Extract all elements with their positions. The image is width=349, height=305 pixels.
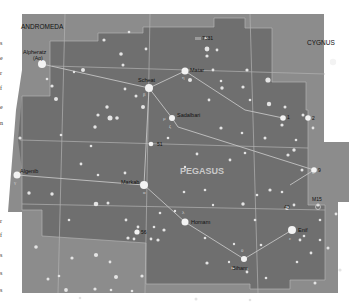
star-sadalbari <box>169 115 175 121</box>
star-51 <box>149 142 154 147</box>
page-cutout <box>338 202 349 293</box>
star-map: ANDROMEDA CYGNUS PEGASUS Alpheratz (Aα) … <box>0 0 349 305</box>
label-pegasus: PEGASUS <box>180 166 224 176</box>
label-markab: Markab <box>121 179 139 185</box>
label-algenib: Algenib <box>20 168 38 174</box>
label-9: 9 <box>318 167 321 173</box>
label-56: 56 <box>141 229 147 235</box>
star-scheat <box>145 84 153 92</box>
star-1 <box>280 115 286 121</box>
label-enif: Enif <box>298 227 308 233</box>
label-sadalbari: Sadalbari <box>177 112 200 118</box>
star-alpheratz <box>38 60 46 68</box>
page-cutout <box>324 14 349 142</box>
greek-mu: μ <box>163 116 166 121</box>
star-56 <box>134 229 139 234</box>
star-homam <box>182 219 189 226</box>
label-ngc7331: 7331 <box>202 35 213 41</box>
label-scheat: Scheat <box>138 77 156 83</box>
star-2 <box>305 115 311 121</box>
label-m15: M15 <box>312 196 322 202</box>
label-2: 2 <box>312 115 315 121</box>
star-matar <box>182 68 189 75</box>
label-40: 40 <box>284 204 290 210</box>
greek-alpha: α <box>143 190 146 195</box>
label-homam: Homam <box>191 219 211 225</box>
label-cygnus: CYGNUS <box>307 39 335 46</box>
label-alpheratz-alt: (Aα) <box>33 55 43 61</box>
galaxy-ngc7331-icon <box>195 37 201 40</box>
star-enif <box>288 226 296 234</box>
greek-epsilon: ε <box>289 236 291 241</box>
star-markab <box>140 181 148 189</box>
star-cygnus <box>330 59 336 65</box>
greek-eta: η <box>182 75 185 80</box>
label-biham: Biham <box>232 265 248 271</box>
label-matar: Matar <box>190 67 204 73</box>
label-1: 1 <box>287 114 290 120</box>
greek-zeta: ζ <box>169 124 171 129</box>
label-51: 51 <box>157 141 163 147</box>
star-biham <box>241 256 247 262</box>
label-andromeda: ANDROMEDA <box>21 23 64 30</box>
